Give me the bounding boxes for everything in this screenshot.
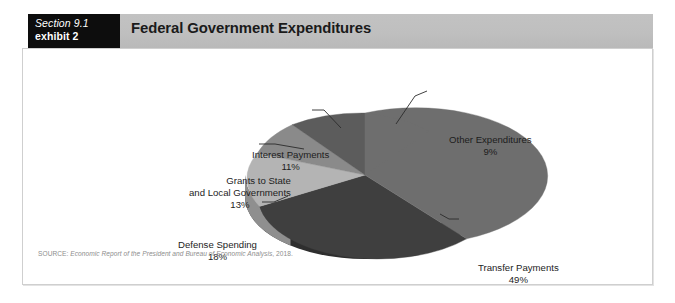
source-year: , 2018. (272, 250, 293, 257)
pie-label-other-expenditures: Other Expenditures 9% (449, 134, 532, 158)
pie-value-interest-payments: 11% (252, 161, 329, 173)
exhibit-figure: Section 9.1 exhibit 2 Federal Government… (0, 0, 675, 303)
pie-label-grants-line2: and Local Governments (189, 187, 291, 198)
source-citation: Economic Report of the President and Bur… (70, 250, 272, 257)
exhibit-tag: Section 9.1 exhibit 2 (28, 14, 120, 48)
pie-label-transfer-payments: Transfer Payments 49% (478, 262, 559, 286)
pie-label-grants: Grants to State and Local Governments 13… (189, 175, 291, 212)
pie-label-interest-payments: Interest Payments 11% (252, 149, 329, 173)
page-title: Federal Government Expenditures (131, 19, 371, 37)
pie-slices (247, 108, 548, 259)
source-note: SOURCE: Economic Report of the President… (38, 250, 293, 257)
pie-label-transfer-payments-text: Transfer Payments (478, 262, 559, 273)
pie-value-grants: 13% (189, 199, 291, 211)
pie-value-transfer-payments: 49% (478, 274, 559, 286)
pie-label-interest-payments-text: Interest Payments (252, 149, 329, 160)
section-label: Section 9.1 (35, 17, 120, 30)
pie-label-grants-line1: Grants to State (226, 175, 291, 186)
exhibit-number-label: exhibit 2 (35, 30, 120, 43)
source-prefix: SOURCE: (38, 250, 68, 257)
pie-label-defense-spending-text: Defense Spending (178, 239, 257, 250)
pie-value-other-expenditures: 9% (449, 146, 532, 158)
pie-label-other-expenditures-text: Other Expenditures (449, 134, 532, 145)
